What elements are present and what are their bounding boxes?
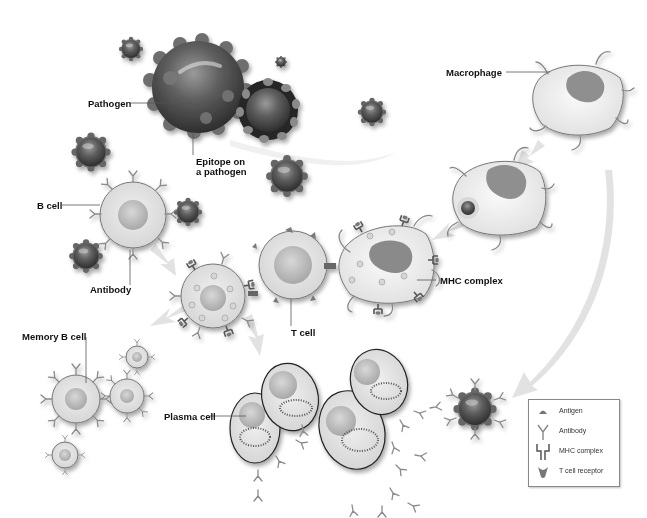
legend-item-t-cell-receptor: T cell receptor: [529, 463, 619, 481]
antibody-icon: [534, 423, 552, 441]
activated-b-cell: [170, 252, 255, 338]
plasma-cells: [230, 341, 417, 478]
memory-b-cell-medium: [101, 370, 153, 422]
immune-response-diagram: Pathogen Epitope on a pathogen Macrophag…: [0, 0, 647, 518]
label-plasma-cell: Plasma cell: [164, 411, 216, 422]
label-pathogen: Pathogen: [88, 98, 131, 109]
label-antibody: Antibody: [90, 284, 131, 295]
b-cell: [90, 171, 176, 259]
legend-item-antigen: Antigen: [529, 403, 619, 421]
t-cell: [248, 227, 336, 303]
antigen-icon: [534, 403, 552, 421]
legend-item-antibody: Antibody: [529, 423, 619, 441]
memory-b-cells: [41, 339, 155, 474]
legend-item-mhc-complex: MHC complex: [529, 443, 619, 461]
antibody-tagged-pathogen: [444, 379, 505, 439]
label-b-cell: B cell: [37, 200, 62, 211]
macrophage-presenting: [339, 214, 440, 316]
legend: Antigen Antibody MHC complex T cell rece…: [528, 399, 620, 487]
memory-b-cell-small-bottom: [45, 435, 84, 474]
label-macrophage: Macrophage: [446, 67, 502, 78]
macrophage-engulfing: [447, 148, 554, 251]
t-cell-receptor-icon: [534, 463, 552, 481]
label-epitope-line2: a pathogen: [196, 166, 247, 177]
label-memory-b-cell: Memory B cell: [22, 331, 86, 342]
legend-label: MHC complex: [559, 447, 603, 454]
pathogen-large: [143, 33, 253, 139]
mhc-complex-icon: [534, 443, 552, 461]
label-mhc-complex: MHC complex: [440, 275, 503, 286]
memory-b-cell-large: [41, 364, 111, 434]
macrophage-resting: [530, 52, 634, 150]
legend-label: T cell receptor: [559, 467, 603, 474]
memory-b-cell-small-top: [119, 339, 154, 374]
legend-label: Antigen: [559, 407, 583, 414]
legend-label: Antibody: [559, 427, 586, 434]
label-t-cell: T cell: [291, 327, 315, 338]
